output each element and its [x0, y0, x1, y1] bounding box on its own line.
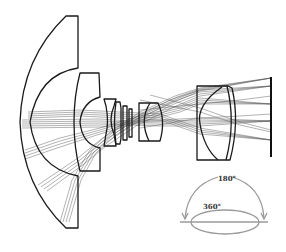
middle-positive-inner-surface	[144, 103, 150, 141]
fov-vertical-label: 180°	[218, 174, 236, 183]
fisheye-lens-diagram: 180° 360°	[0, 0, 286, 252]
fov-vertical-arc-left	[185, 177, 218, 218]
second-meniscus-element	[74, 73, 100, 171]
fov-horizontal-label: 360°	[203, 202, 221, 211]
ray-bundle-field-3	[60, 78, 271, 222]
fov-inset: 180° 360°	[180, 174, 268, 234]
fov-vertical-arc-right	[232, 177, 264, 218]
ray-bundle-rear	[140, 95, 271, 132]
